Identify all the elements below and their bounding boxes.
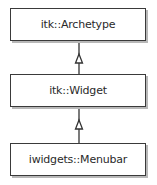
class-box-archetype: itk::Archetype [10,8,146,41]
class-hierarchy-diagram: itk::Archetype itk::Widget iwidgets::Men… [0,0,157,185]
class-box-widget: itk::Widget [10,74,146,107]
class-label: iwidgets::Menubar [29,153,127,166]
class-label: itk::Archetype [41,18,116,31]
generalization-arrow-icon [76,120,83,129]
class-label: itk::Widget [49,84,107,97]
class-box-menubar: iwidgets::Menubar [10,143,146,176]
generalization-arrow-icon [76,54,83,63]
